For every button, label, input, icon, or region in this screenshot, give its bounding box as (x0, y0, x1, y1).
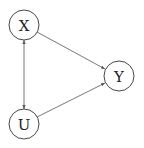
causal-diagram: X Y U (0, 0, 144, 148)
edge-x-to-y (37, 32, 105, 69)
node-y: Y (104, 61, 134, 91)
node-u-label: U (18, 116, 31, 134)
node-x: X (9, 10, 39, 40)
node-x-label: X (19, 17, 30, 35)
edge-u-to-y (37, 83, 105, 117)
node-u: U (9, 109, 39, 139)
node-y-label: Y (113, 68, 125, 86)
